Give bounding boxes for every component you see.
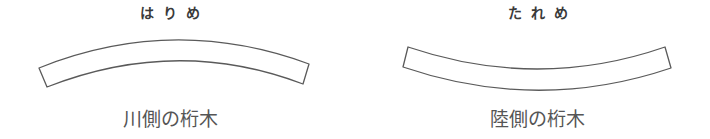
panel-river-side-beam: はりめ 川側の桁木: [0, 0, 355, 139]
caption-river-side-beam: 川側の桁木: [70, 106, 270, 132]
panel-land-side-beam: たれめ 陸側の桁木: [355, 0, 710, 139]
heading-tareme: たれめ: [442, 3, 642, 23]
caption-land-side-beam: 陸側の桁木: [437, 106, 637, 132]
heading-harime: はりめ: [74, 3, 274, 23]
